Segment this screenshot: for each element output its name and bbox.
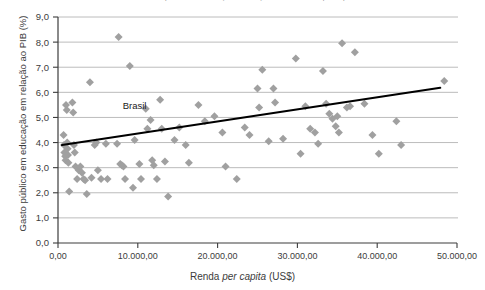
scatter-plot: 0,01,02,03,04,05,06,07,08,09,0 0,0010.00… <box>0 0 485 290</box>
data-point <box>194 101 202 109</box>
data-point <box>185 159 193 167</box>
data-point <box>60 131 68 139</box>
data-point <box>153 175 161 183</box>
x-tick-label: 40.000,00 <box>357 251 397 261</box>
data-point <box>222 162 230 170</box>
data-point <box>137 175 145 183</box>
data-point <box>279 135 287 143</box>
data-point <box>129 184 137 192</box>
y-tick-labels: 0,01,02,03,04,05,06,07,08,09,0 <box>36 11 49 248</box>
data-point <box>392 117 400 125</box>
x-tick-label: 10.000,00 <box>118 251 158 261</box>
data-point <box>314 140 322 148</box>
y-tick-label: 9,0 <box>36 11 49 22</box>
data-point <box>126 62 134 70</box>
data-point <box>102 140 110 148</box>
annotation-label: Brasil <box>123 100 147 111</box>
y-tick-label: 2,0 <box>36 187 49 198</box>
data-point <box>113 140 121 148</box>
y-tick-label: 0,0 <box>36 237 49 248</box>
data-point <box>338 39 346 47</box>
data-point <box>351 48 359 56</box>
y-tick-label: 4,0 <box>36 137 49 148</box>
x-tick-labels: 0,0010.000,0020.000,0030.000,0040.000,00… <box>49 251 477 261</box>
data-point <box>255 103 263 111</box>
data-point <box>83 190 91 198</box>
data-point <box>156 96 164 104</box>
data-point <box>161 157 169 165</box>
y-tick-label: 1,0 <box>36 212 49 223</box>
data-point <box>65 188 73 196</box>
data-point <box>265 137 273 145</box>
data-point <box>292 54 300 62</box>
data-point <box>246 131 254 139</box>
data-point <box>218 129 226 137</box>
y-tick-label: 3,0 <box>36 162 49 173</box>
y-tick-label: 8,0 <box>36 37 49 48</box>
x-tick-label: 20.000,00 <box>198 251 238 261</box>
data-point <box>297 150 305 158</box>
data-point <box>115 33 123 41</box>
y-tick-label: 7,0 <box>36 62 49 73</box>
x-tick-marks <box>58 243 457 248</box>
x-tick-label: 30.000,00 <box>277 251 317 261</box>
data-point <box>135 160 143 168</box>
x-tick-label: 0,00 <box>49 251 67 261</box>
gridlines <box>58 17 458 218</box>
data-point <box>241 123 249 131</box>
data-point <box>210 112 218 120</box>
y-tick-label: 6,0 <box>36 87 49 98</box>
data-point <box>233 175 241 183</box>
data-point <box>368 131 376 139</box>
data-point <box>71 149 79 157</box>
data-point <box>271 98 279 106</box>
annotations: Brasil <box>123 100 147 111</box>
y-tick-label: 5,0 <box>36 112 49 123</box>
data-point <box>121 175 129 183</box>
chart-figure: Gráfico 1 – Gasto público em educação em… <box>0 0 485 290</box>
x-tick-label: 50.000,00 <box>437 251 477 261</box>
data-point <box>103 175 111 183</box>
data-point <box>254 85 262 93</box>
data-point <box>360 100 368 108</box>
data-point <box>440 77 448 85</box>
data-point <box>269 85 277 93</box>
data-point <box>86 78 94 86</box>
y-tick-marks <box>53 17 58 243</box>
data-point <box>164 193 172 201</box>
data-point <box>319 67 327 75</box>
data-point <box>375 150 383 158</box>
